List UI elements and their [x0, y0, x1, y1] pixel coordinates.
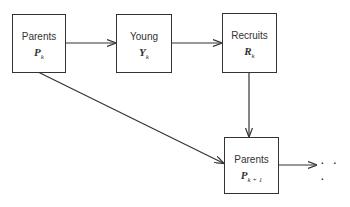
node-recruits-k: Recruits Rk — [222, 13, 277, 73]
node-label: Parents — [225, 154, 278, 165]
node-symbol: Pk + 1 — [225, 169, 278, 184]
node-label: Young — [117, 31, 171, 42]
node-label: Parents — [13, 31, 65, 42]
node-parents-k: Parents Pk — [12, 14, 66, 73]
node-symbol: Pk — [13, 46, 65, 61]
node-label: Recruits — [223, 30, 276, 41]
node-symbol: Yk — [117, 46, 171, 61]
arrow-parents-to-parents-next — [38, 72, 223, 163]
node-symbol: Rk — [223, 45, 276, 60]
node-parents-k-plus-1: Parents Pk + 1 — [224, 137, 279, 194]
continuation-ellipsis: · · · — [320, 154, 350, 186]
node-young-k: Young Yk — [116, 14, 172, 73]
